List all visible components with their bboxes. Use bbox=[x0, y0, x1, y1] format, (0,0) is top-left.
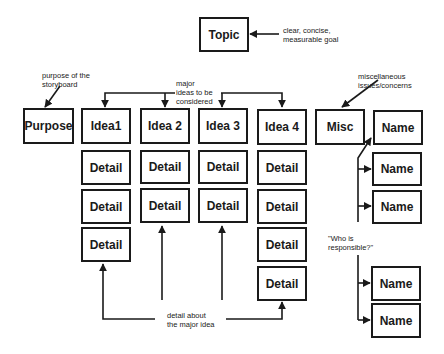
idea-4-detail-3: Detail bbox=[257, 227, 307, 262]
idea-2-detail-1: Detail bbox=[140, 150, 190, 184]
annotation-line: clear, concise, bbox=[283, 26, 338, 35]
annotation-line: major bbox=[176, 79, 213, 88]
details-annotation: detail about the major idea bbox=[167, 311, 215, 329]
annotation-line: purpose of the bbox=[42, 71, 90, 80]
idea-1-detail-1: Detail bbox=[81, 150, 131, 185]
misc-box: Misc bbox=[315, 109, 365, 145]
idea-1-detail-2: Detail bbox=[81, 189, 131, 224]
annotation-line: miscellaneous bbox=[358, 72, 412, 81]
topic-box: Topic bbox=[199, 17, 249, 52]
annotation-line: storyboard bbox=[42, 80, 90, 89]
name-box-2: Name bbox=[372, 152, 422, 186]
misc-annotation: miscellaneous issues/concerns bbox=[358, 72, 412, 90]
annotation-line: considered bbox=[176, 97, 213, 106]
idea-4-detail-4: Detail bbox=[257, 266, 307, 301]
annotation-line: detail about bbox=[167, 311, 215, 320]
annotation-line: "Who is bbox=[328, 234, 373, 243]
idea-4-detail-2: Detail bbox=[257, 189, 307, 224]
idea-3-detail-2: Detail bbox=[198, 188, 248, 223]
idea-4-box: Idea 4 bbox=[257, 109, 307, 145]
names-annotation: "Who is responsible?" bbox=[328, 234, 373, 252]
purpose-box: Purpose bbox=[23, 108, 74, 144]
name-box-5: Name bbox=[371, 303, 421, 338]
idea-1-detail-3: Detail bbox=[81, 227, 131, 262]
idea-3-box: Idea 3 bbox=[198, 108, 248, 144]
annotation-line: issues/concerns bbox=[358, 81, 412, 90]
annotation-line: the major idea bbox=[167, 320, 215, 329]
purpose-annotation: purpose of the storyboard bbox=[42, 71, 90, 89]
ideas-annotation: major ideas to be considered bbox=[176, 79, 213, 106]
name-box-1: Name bbox=[373, 110, 423, 145]
name-box-3: Name bbox=[372, 190, 422, 224]
idea-1-box: Idea1 bbox=[81, 108, 131, 144]
topic-annotation: clear, concise, measurable goal bbox=[283, 26, 338, 44]
annotation-line: ideas to be bbox=[176, 88, 213, 97]
idea-3-detail-1: Detail bbox=[198, 150, 248, 184]
annotation-line: responsible?" bbox=[328, 243, 373, 252]
idea-4-detail-1: Detail bbox=[257, 150, 307, 185]
annotation-line: measurable goal bbox=[283, 35, 338, 44]
name-box-4: Name bbox=[371, 266, 421, 301]
idea-2-detail-2: Detail bbox=[140, 188, 190, 223]
idea-2-box: Idea 2 bbox=[140, 108, 190, 144]
